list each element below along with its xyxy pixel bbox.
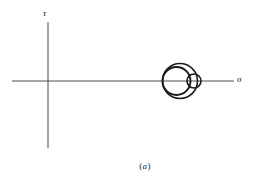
tau-axis-label: τ <box>43 9 46 18</box>
figure-caption: (a) <box>0 161 258 171</box>
caption-close-paren: ) <box>147 161 150 171</box>
sigma-axis-label: σ <box>237 75 241 84</box>
mohr-circle-figure: τ σ (a) <box>0 0 258 183</box>
mohr-circle-plot <box>0 0 258 183</box>
